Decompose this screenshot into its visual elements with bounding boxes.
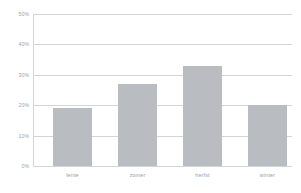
- y-tick-label: 30%: [4, 72, 29, 78]
- y-tick-label: 0%: [4, 163, 29, 169]
- bar-herfst[interactable]: [183, 66, 222, 166]
- gridline: [33, 166, 292, 167]
- bar-chart: 50% 40% 30% 20% 10% 0% lente zomer herfs…: [0, 0, 301, 193]
- y-tick-label: 20%: [4, 102, 29, 108]
- gridline: [33, 75, 292, 76]
- y-tick-label: 50%: [4, 11, 29, 17]
- bar-zomer[interactable]: [118, 84, 157, 166]
- gridline: [33, 44, 292, 45]
- x-tick-label-winter: winter: [228, 172, 301, 179]
- plot-area: [33, 14, 292, 166]
- y-tick-label: 40%: [4, 41, 29, 47]
- bar-lente[interactable]: [53, 108, 92, 166]
- y-tick-label: 10%: [4, 133, 29, 139]
- gridline: [33, 14, 292, 15]
- bar-winter[interactable]: [248, 105, 287, 166]
